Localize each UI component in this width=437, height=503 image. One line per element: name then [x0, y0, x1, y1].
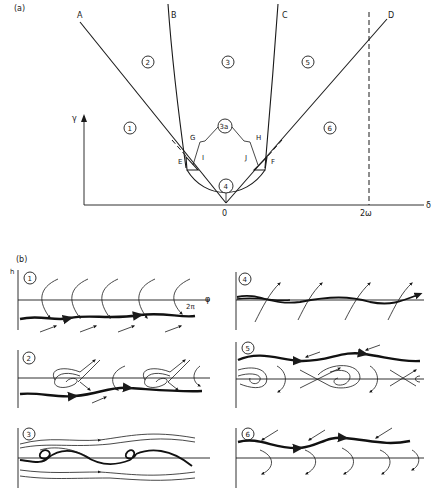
phase-portrait-3: 3: [18, 428, 210, 488]
dashed-extension-e: [172, 140, 186, 156]
label-i: I: [202, 154, 204, 162]
two-pi-tick: 2π: [186, 303, 195, 311]
label-h: H: [256, 134, 261, 142]
boundary-line-a: [80, 22, 226, 203]
svg-text:6: 6: [246, 431, 251, 439]
label-f: F: [271, 158, 275, 166]
panel-b: (b) h φ 2π 1 4: [10, 255, 424, 488]
region-4: 4: [219, 179, 233, 193]
svg-text:1: 1: [28, 275, 32, 283]
region-3a: 3a: [218, 119, 232, 133]
svg-text:5: 5: [246, 345, 250, 353]
region-5: 5: [302, 56, 314, 68]
gamma-axis-arrow-icon: [81, 114, 87, 122]
region-2: 2: [142, 56, 154, 68]
leader-3a-left: [193, 127, 218, 165]
panel-a: (a) γ δ 0 2ω A B C D: [14, 4, 431, 218]
svg-text:2: 2: [27, 355, 31, 363]
phase-portrait-6: 6: [236, 428, 424, 488]
phase-portrait-5: 5: [236, 342, 424, 408]
svg-text:3: 3: [27, 431, 31, 439]
phi-axis-label: φ: [205, 295, 210, 304]
phase-portrait-1: h φ 2π 1: [10, 268, 210, 332]
phase-portrait-2: 2: [18, 350, 210, 408]
region-3: 3: [222, 56, 234, 68]
tick-zero: 0: [222, 209, 227, 218]
label-a: A: [77, 11, 83, 20]
delta-axis-label: δ: [426, 201, 431, 210]
svg-text:4: 4: [224, 183, 229, 191]
figure-canvas: (a) γ δ 0 2ω A B C D: [0, 0, 437, 503]
label-j: J: [244, 154, 247, 162]
boundary-curve-c: [265, 4, 278, 168]
label-d: D: [388, 11, 394, 20]
svg-text:3: 3: [226, 59, 230, 67]
svg-text:1: 1: [128, 125, 132, 133]
svg-text:2: 2: [146, 59, 150, 67]
label-c: C: [282, 11, 288, 20]
dashed-extension-f: [268, 140, 282, 156]
panel-b-label: (b): [16, 255, 27, 264]
tick-two-omega: 2ω: [360, 209, 372, 218]
svg-text:3a: 3a: [220, 123, 229, 131]
label-b: B: [171, 11, 177, 20]
label-e: E: [178, 158, 182, 166]
h-axis-label: h: [10, 268, 14, 276]
label-g: G: [190, 134, 195, 142]
boundary-line-d: [226, 19, 387, 203]
region-1: 1: [124, 122, 136, 134]
gamma-axis-label: γ: [72, 114, 77, 123]
svg-text:6: 6: [328, 125, 333, 133]
region-6: 6: [324, 122, 336, 134]
svg-text:5: 5: [306, 59, 310, 67]
boundary-curve-b: [168, 4, 186, 168]
triangle-e: [186, 157, 198, 170]
panel-a-label: (a): [14, 4, 25, 13]
phase-portrait-4: 4: [236, 272, 424, 330]
svg-text:4: 4: [243, 276, 248, 284]
